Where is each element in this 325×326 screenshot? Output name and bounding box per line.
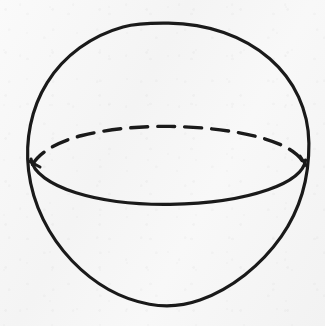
equator-back-arc-group	[33, 126, 305, 164]
sphere-figure-canvas: Sphere with equator	[0, 0, 325, 326]
equator-back-arc	[33, 126, 305, 164]
sphere-outline-group	[28, 23, 309, 306]
equator-front-arc-group	[31, 159, 306, 204]
sphere-diagram-svg	[0, 0, 325, 326]
sphere-outline-circle	[28, 23, 309, 306]
equator-front-arc	[31, 159, 306, 204]
equator-junction-group	[29, 156, 307, 167]
